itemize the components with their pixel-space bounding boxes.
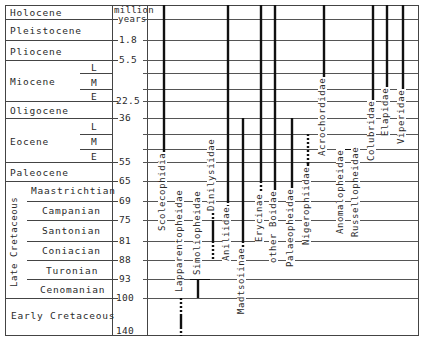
taxon-acrochordidae: Acrochordidae bbox=[318, 77, 327, 157]
epoch-oligocene: Oligocene bbox=[10, 106, 69, 116]
taxon-viperidae: Viperidae bbox=[397, 89, 406, 145]
stage-coniacian: Coniacian bbox=[42, 246, 101, 256]
epoch-miocene: Miocene bbox=[10, 77, 56, 87]
axis-unit-line2: years bbox=[118, 15, 147, 24]
epoch-holocene: Holocene bbox=[10, 8, 62, 18]
tick-label: 55 bbox=[119, 157, 131, 167]
epoch-early-cretaceous: Early Cretaceous bbox=[11, 311, 115, 321]
tick-label: 65 bbox=[119, 176, 131, 186]
tick-label: 36 bbox=[119, 113, 131, 123]
tick-label: 22.5 bbox=[116, 96, 140, 106]
stage-maastrichtian: Maastrichtian bbox=[31, 186, 116, 196]
eocene-late: L bbox=[91, 122, 98, 132]
tick-label: 75 bbox=[119, 215, 131, 225]
tick-label: 93 bbox=[119, 274, 131, 284]
tick-label: 140 bbox=[116, 326, 134, 336]
tick-label: 88 bbox=[119, 255, 131, 265]
taxon-colubridae: Colubridae bbox=[367, 100, 376, 162]
stage-campanian: Campanian bbox=[42, 206, 101, 216]
taxon-elapidae: Elapidae bbox=[381, 87, 390, 137]
taxon-simoliopheidae: Simoliopheidae bbox=[193, 190, 202, 276]
taxon-nigerophiidae: Nigerophiidae bbox=[302, 166, 311, 246]
epoch-paleocene: Paleocene bbox=[10, 168, 69, 178]
tick-label: 81 bbox=[119, 236, 131, 246]
taxon-lapparentopheidae: Lapparentopheidae bbox=[175, 189, 184, 293]
tick-label: 5.5 bbox=[119, 55, 137, 65]
taxon-other-boidae: other Boidae bbox=[269, 190, 278, 264]
taxon-scolecophidia: Scolecophidia bbox=[158, 152, 167, 232]
taxon-madtsoiinae: Madtsoiinae bbox=[237, 247, 246, 315]
tick-label: 1.8 bbox=[119, 35, 137, 45]
taxon-aniliidae: Aniliidae bbox=[222, 206, 231, 262]
eocene-early: E bbox=[91, 152, 98, 162]
taxon-dinilysiidae: Dinilysiidae bbox=[207, 138, 216, 212]
tick-label: 100 bbox=[116, 293, 134, 303]
eocene-middle: M bbox=[91, 137, 98, 147]
grid-lines bbox=[143, 20, 418, 299]
taxon-erycinae: Erycinae bbox=[255, 193, 264, 243]
tick-label: 69 bbox=[119, 196, 131, 206]
stage-santonian: Santonian bbox=[42, 226, 101, 236]
taxon-anomalopheidae: Anomalopheidae bbox=[336, 149, 345, 235]
taxon-russellopheidae: Russellopheidae bbox=[351, 146, 360, 238]
miocene-late: L bbox=[91, 63, 98, 73]
epoch-late-cretaceous: Late Cretaceous bbox=[10, 196, 19, 288]
miocene-early: E bbox=[91, 92, 98, 102]
stage-cenomanian: Cenomanian bbox=[40, 285, 105, 295]
stage-turonian: Turonian bbox=[46, 266, 98, 276]
taxon-ranges bbox=[164, 5, 403, 336]
epoch-pliocene: Pliocene bbox=[10, 47, 62, 57]
miocene-middle: M bbox=[91, 78, 98, 88]
taxon-palaeopheidae: Palaeopheidae bbox=[286, 188, 295, 268]
epoch-eocene: Eocene bbox=[10, 137, 49, 147]
epoch-pleistocene: Pleistocene bbox=[10, 26, 82, 36]
